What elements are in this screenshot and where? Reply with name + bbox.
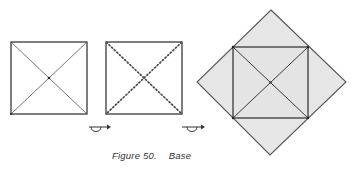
step-1-square bbox=[10, 42, 87, 115]
figure-title: Base bbox=[169, 150, 191, 161]
center-point-icon bbox=[48, 77, 51, 80]
turn-over-icon bbox=[182, 125, 205, 132]
figure-number: Figure 50. bbox=[112, 150, 157, 161]
turn-over-icon bbox=[89, 125, 111, 132]
origami-figure: Figure 50.Base bbox=[0, 0, 354, 171]
step-3-base bbox=[197, 10, 346, 155]
figure-caption: Figure 50.Base bbox=[112, 150, 232, 161]
step-2-square bbox=[106, 42, 182, 114]
diagram-canvas bbox=[0, 0, 354, 171]
